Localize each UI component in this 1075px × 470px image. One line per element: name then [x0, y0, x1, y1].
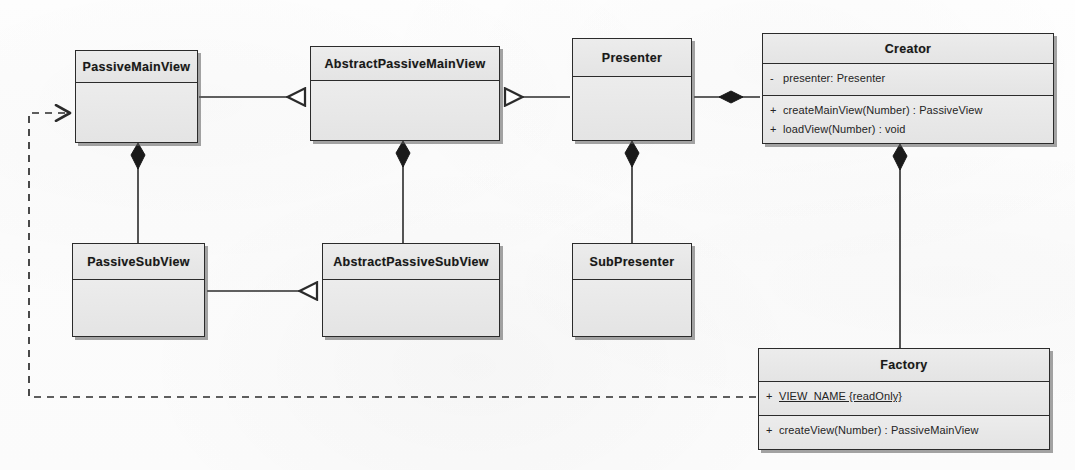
visibility-marker: + [770, 121, 783, 138]
attribute-row: + VIEW_NAME {readOnly} [759, 387, 1049, 406]
class-box-creator[interactable]: Creator - presenter: Presenter + createM… [762, 33, 1054, 144]
class-body-presenter [573, 77, 691, 140]
class-name-passive-sub-view: PassiveSubView [73, 244, 204, 280]
class-operations-factory: + createView(Number) : PassiveMainView [759, 415, 1049, 449]
visibility-marker: + [766, 388, 779, 405]
class-box-passive-main-view[interactable]: PassiveMainView [75, 50, 198, 143]
class-box-abstract-passive-main-view[interactable]: AbstractPassiveMainView [310, 46, 500, 141]
class-body-sub-presenter [573, 280, 691, 336]
edge-composition-creator-presenter [694, 91, 760, 103]
attribute-label: VIEW_NAME {readOnly} [779, 388, 902, 405]
visibility-marker: - [770, 70, 783, 87]
class-name-creator: Creator [763, 34, 1053, 64]
operation-row: + createView(Number) : PassiveMainView [759, 421, 1049, 440]
class-box-abstract-passive-sub-view[interactable]: AbstractPassiveSubView [322, 243, 500, 337]
class-box-factory[interactable]: Factory + VIEW_NAME {readOnly} + createV… [758, 348, 1050, 450]
operation-row: + loadView(Number) : void [763, 120, 1053, 139]
class-box-presenter[interactable]: Presenter [572, 38, 692, 141]
class-box-sub-presenter[interactable]: SubPresenter [572, 243, 692, 337]
class-body-passive-main-view [76, 83, 197, 142]
edge-composition-creator-factory [893, 144, 907, 349]
class-name-factory: Factory [759, 349, 1049, 382]
attribute-row: - presenter: Presenter [763, 69, 1053, 88]
class-operations-creator: + createMainView(Number) : PassiveView +… [763, 95, 1053, 143]
class-body-abstract-passive-main-view [311, 81, 499, 140]
class-attributes-factory: + VIEW_NAME {readOnly} [759, 382, 1049, 415]
visibility-marker: + [766, 422, 779, 439]
edge-composition-abstractpassivemainview-abstractpassivesubview [396, 141, 410, 244]
visibility-marker: + [770, 102, 783, 119]
attribute-label: presenter: Presenter [783, 70, 885, 87]
class-body-passive-sub-view [73, 280, 204, 336]
class-name-presenter: Presenter [573, 39, 691, 77]
operation-label: loadView(Number) : void [783, 121, 906, 138]
class-box-passive-sub-view[interactable]: PassiveSubView [72, 243, 205, 337]
class-body-abstract-passive-sub-view [323, 280, 499, 336]
operation-row: + createMainView(Number) : PassiveView [763, 101, 1053, 120]
class-name-passive-main-view: PassiveMainView [76, 51, 197, 83]
operation-label: createMainView(Number) : PassiveView [783, 102, 982, 119]
edge-composition-passivemainview-passivesubview [131, 143, 145, 244]
uml-class-diagram: PassiveMainView AbstractPassiveMainView … [0, 0, 1075, 470]
class-name-sub-presenter: SubPresenter [573, 244, 691, 280]
class-attributes-creator: - presenter: Presenter [763, 64, 1053, 95]
operation-label: createView(Number) : PassiveMainView [779, 422, 978, 439]
class-name-abstract-passive-main-view: AbstractPassiveMainView [311, 47, 499, 81]
edge-composition-presenter-subpresenter [625, 141, 639, 244]
class-name-abstract-passive-sub-view: AbstractPassiveSubView [323, 244, 499, 280]
